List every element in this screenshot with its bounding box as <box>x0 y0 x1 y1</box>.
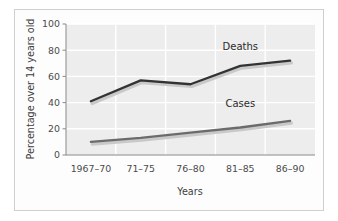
y-tick-label: 60 <box>48 71 60 82</box>
chart-figure: 020406080100 1967–7071–7576–8081–8586–90… <box>0 0 338 221</box>
y-tick-label: 40 <box>48 97 60 108</box>
y-tick-label: 20 <box>48 123 60 134</box>
y-tick-label: 100 <box>42 18 60 29</box>
x-tick-label: 71–75 <box>126 163 155 174</box>
series-label-cases: Cases <box>225 98 255 109</box>
y-axis-ticks <box>63 24 67 155</box>
x-tick-label: 81–85 <box>226 163 255 174</box>
y-tick-label: 80 <box>48 45 60 56</box>
x-tick-label: 86–90 <box>276 163 305 174</box>
x-axis-title: Years <box>176 186 202 197</box>
y-axis-title: Percentage over 14 years old <box>25 19 36 160</box>
x-tick-label: 76–80 <box>176 163 205 174</box>
series-label-deaths: Deaths <box>223 41 258 52</box>
x-tick-label: 1967–70 <box>71 163 112 174</box>
y-tick-label: 0 <box>54 149 60 160</box>
y-axis-tick-labels: 020406080100 <box>42 18 60 160</box>
x-axis-tick-labels: 1967–7071–7576–8081–8586–90 <box>71 163 305 174</box>
line-chart: 020406080100 1967–7071–7576–8081–8586–90… <box>0 0 338 221</box>
